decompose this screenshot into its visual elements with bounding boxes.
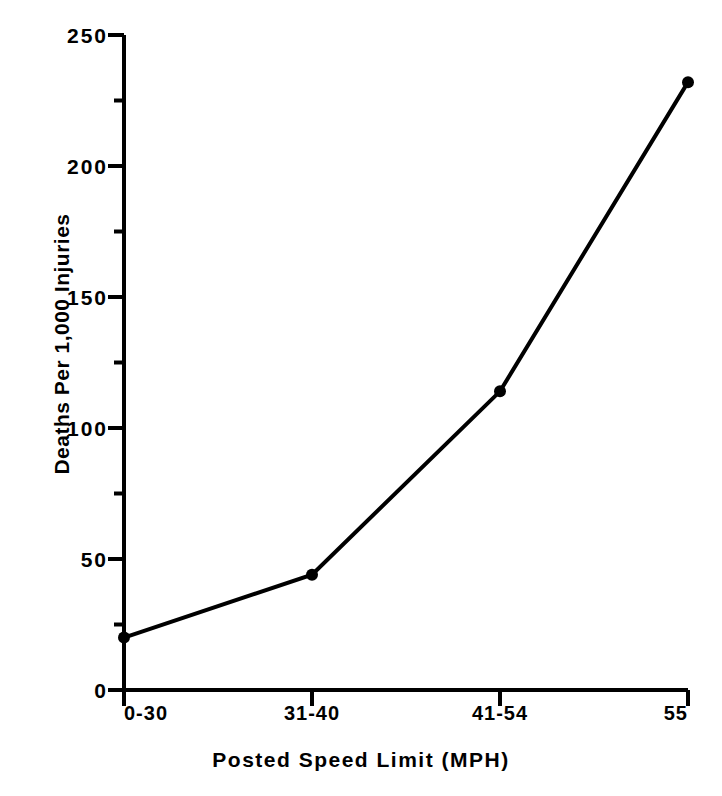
x-tick-label-55: 55 [664,702,688,732]
data-point-markers [118,76,694,643]
data-point-31-40 [306,569,318,581]
chart-plot-area [0,0,722,796]
x-tick-label-0-30: 0-30 [124,702,168,732]
y-tick-label-0: 0 [0,680,108,701]
data-series-line [124,82,688,637]
chart-figure: 0 50 100 150 200 250 Deaths Per 1,000 In… [0,0,722,796]
x-tick-label-31-40: 31-40 [284,702,340,732]
x-axis-title: Posted Speed Limit (MPH) [0,748,722,772]
data-point-0-30 [118,632,130,644]
y-tick-label-250: 250 [0,25,108,46]
x-axis-ticks [124,690,688,706]
x-tick-label-41-54: 41-54 [472,702,528,732]
data-point-41-54 [494,385,506,397]
y-axis-title: Deaths Per 1,000 Injuries [50,134,74,554]
data-point-55 [682,76,694,88]
